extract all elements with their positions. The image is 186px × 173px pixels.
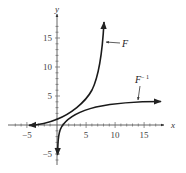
x-axis: −5 5 10 15 x [8, 120, 175, 140]
curve-F [29, 22, 104, 125]
y-tick-label: 10 [43, 62, 53, 72]
y-tick-label: 15 [43, 33, 53, 43]
label-F: F [121, 38, 129, 49]
x-tick-label: 5 [84, 130, 89, 140]
label-F-inverse: F− 1 [134, 74, 149, 85]
y-tick-label: −5 [42, 149, 52, 159]
y-axis: 15 10 5 −5 y [42, 4, 60, 165]
label-F-inverse-sup: − 1 [141, 74, 149, 80]
label-F-annotation: F [106, 38, 129, 49]
x-tick-label: −5 [22, 130, 32, 140]
function-inverse-plot: −5 5 10 15 x 15 10 5 −5 y [0, 0, 186, 173]
label-F-inverse-annotation: F− 1 [134, 74, 149, 100]
x-tick-label: 15 [140, 130, 150, 140]
x-axis-label: x [170, 120, 175, 130]
y-axis-label: y [54, 4, 59, 14]
y-tick-label: 5 [48, 91, 53, 101]
x-tick-label: 10 [111, 130, 121, 140]
